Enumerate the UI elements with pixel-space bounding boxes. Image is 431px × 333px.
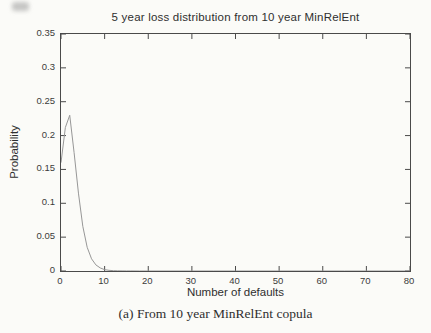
y-axis-label: Probability	[8, 32, 26, 272]
figure-caption: (a) From 10 year MinRelEnt copula	[0, 306, 431, 322]
plot-area	[60, 33, 411, 272]
distribution-curve	[61, 115, 410, 271]
x-axis-label: Number of defaults	[60, 286, 411, 298]
figure-panel: 5 year loss distribution from 10 year Mi…	[0, 0, 431, 333]
curve-canvas	[61, 34, 410, 271]
scan-artifact	[12, 2, 29, 11]
chart-title: 5 year loss distribution from 10 year Mi…	[60, 11, 411, 23]
